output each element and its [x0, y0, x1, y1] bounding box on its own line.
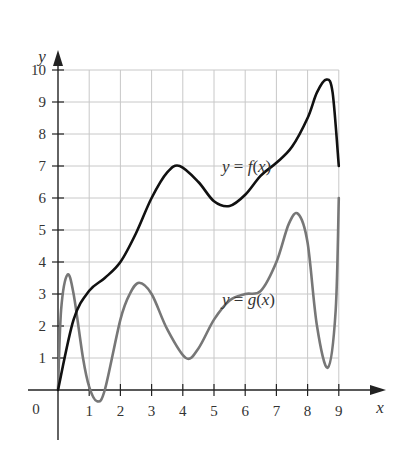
x-axis-arrow-icon	[370, 385, 386, 395]
y-tick-label: 7	[39, 158, 47, 174]
y-tick-label: 8	[39, 126, 47, 142]
x-axis-label: x	[375, 398, 384, 417]
origin-label: 0	[32, 401, 40, 417]
x-tick-label: 1	[85, 403, 93, 419]
y-tick-label: 3	[39, 286, 47, 302]
y-tick-label: 2	[39, 318, 47, 334]
axes	[28, 50, 386, 440]
x-tick-label: 2	[117, 403, 125, 419]
curve-g	[58, 198, 339, 402]
f-curve-label: y = f(x)	[220, 157, 271, 176]
y-tick-label: 4	[39, 254, 47, 270]
chart: 123456789123456789100xy y = f(x)y = g(x)	[0, 0, 415, 452]
curve-labels: y = f(x)y = g(x)	[220, 157, 275, 309]
y-tick-label: 5	[39, 222, 47, 238]
y-tick-label: 9	[39, 94, 47, 110]
y-tick-label: 6	[39, 190, 47, 206]
x-tick-label: 3	[148, 403, 156, 419]
x-tick-label: 8	[304, 403, 312, 419]
x-tick-label: 9	[335, 403, 343, 419]
x-tick-label: 4	[179, 403, 187, 419]
curves	[58, 80, 339, 402]
curve-f	[58, 80, 339, 390]
y-axis-label: y	[36, 47, 46, 66]
y-tick-label: 1	[39, 350, 47, 366]
x-tick-label: 5	[210, 403, 218, 419]
y-axis-arrow-icon	[53, 50, 63, 66]
g-curve-label: y = g(x)	[220, 290, 275, 309]
grid	[58, 70, 339, 390]
x-tick-label: 7	[273, 403, 281, 419]
x-tick-label: 6	[241, 403, 249, 419]
